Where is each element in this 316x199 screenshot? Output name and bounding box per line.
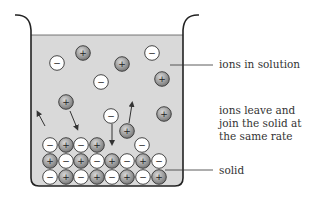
- negative-ion: −: [104, 109, 119, 124]
- svg-text:−: −: [97, 77, 105, 87]
- label-equilibrium-line3: the same rate: [219, 130, 292, 143]
- negative-ion: −: [74, 170, 89, 185]
- negative-ion: −: [90, 154, 105, 169]
- negative-ion: −: [145, 46, 160, 61]
- svg-text:−: −: [139, 172, 147, 182]
- svg-text:+: +: [108, 156, 116, 166]
- svg-text:+: +: [118, 59, 126, 69]
- label-equilibrium-line1: ions leave and: [219, 104, 295, 117]
- negative-ion: −: [105, 170, 120, 185]
- svg-text:+: +: [46, 156, 54, 166]
- negative-ion: −: [59, 154, 74, 169]
- svg-text:+: +: [160, 109, 168, 119]
- svg-text:−: −: [77, 140, 85, 150]
- svg-text:+: +: [62, 172, 70, 182]
- svg-text:+: +: [123, 172, 131, 182]
- positive-ion: +: [105, 154, 120, 169]
- svg-text:−: −: [53, 58, 61, 68]
- positive-ion: +: [76, 46, 91, 61]
- svg-text:−: −: [62, 156, 70, 166]
- negative-ion: −: [120, 154, 135, 169]
- positive-ion: +: [152, 170, 167, 185]
- negative-ion: −: [43, 138, 58, 153]
- svg-text:−: −: [46, 140, 54, 150]
- positive-ion: +: [157, 107, 172, 122]
- svg-text:−: −: [148, 48, 156, 58]
- svg-text:+: +: [155, 172, 163, 182]
- svg-text:−: −: [108, 172, 116, 182]
- svg-text:+: +: [93, 172, 101, 182]
- svg-text:−: −: [107, 111, 115, 121]
- positive-ion: +: [59, 170, 74, 185]
- svg-text:−: −: [93, 156, 101, 166]
- svg-text:−: −: [46, 172, 54, 182]
- svg-text:−: −: [155, 156, 163, 166]
- positive-ion: +: [90, 138, 105, 153]
- positive-ion: +: [136, 154, 151, 169]
- svg-text:−: −: [123, 156, 131, 166]
- positive-ion: +: [155, 72, 170, 87]
- svg-text:+: +: [62, 97, 70, 107]
- negative-ion: −: [136, 170, 151, 185]
- svg-text:+: +: [77, 156, 85, 166]
- positive-ion: +: [120, 170, 135, 185]
- beaker-diagram: −+−+−+−++−+−+−+−−+−+−++−−++−++−: [0, 0, 316, 199]
- label-equilibrium-line2: join the solid at: [219, 117, 302, 130]
- svg-text:−: −: [77, 172, 85, 182]
- svg-text:+: +: [158, 74, 166, 84]
- positive-ion: +: [115, 57, 130, 72]
- svg-text:−: −: [138, 140, 146, 150]
- label-ions-in-solution: ions in solution: [219, 58, 300, 71]
- positive-ion: +: [90, 170, 105, 185]
- positive-ion: +: [59, 95, 74, 110]
- negative-ion: −: [50, 56, 65, 71]
- negative-ion: −: [152, 154, 167, 169]
- negative-ion: −: [43, 170, 58, 185]
- svg-text:+: +: [123, 126, 131, 136]
- svg-text:+: +: [62, 140, 70, 150]
- positive-ion: +: [74, 154, 89, 169]
- negative-ion: −: [94, 75, 109, 90]
- svg-text:+: +: [139, 156, 147, 166]
- positive-ion: +: [120, 124, 135, 139]
- positive-ion: +: [59, 138, 74, 153]
- negative-ion: −: [135, 138, 150, 153]
- positive-ion: +: [43, 154, 58, 169]
- svg-text:+: +: [79, 48, 87, 58]
- negative-ion: −: [74, 138, 89, 153]
- label-solid: solid: [219, 164, 244, 177]
- svg-text:+: +: [93, 140, 101, 150]
